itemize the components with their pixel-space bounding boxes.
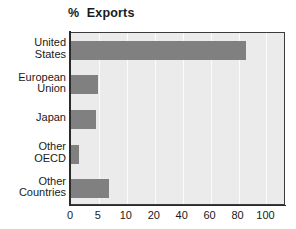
- gridline: [266, 33, 267, 204]
- y-axis-label-line: States: [34, 49, 66, 61]
- y-axis-label-line: OECD: [34, 153, 66, 165]
- y-axis-label: EuropeanUnion: [18, 72, 66, 95]
- x-axis-tick-label: 10: [120, 209, 132, 221]
- x-axis-tick-label: 60: [203, 209, 215, 221]
- x-axis-tick-label: 5: [95, 209, 101, 221]
- bar: [71, 179, 109, 198]
- bar: [71, 41, 246, 60]
- bar: [71, 145, 79, 164]
- x-axis-tick-label: 20: [148, 209, 160, 221]
- x-axis-tick-label: 0: [67, 209, 73, 221]
- chart-title-text: Exports: [87, 6, 135, 20]
- x-axis-tick-label: 40: [176, 209, 188, 221]
- bar: [71, 110, 96, 129]
- y-axis-label-line: Other: [34, 141, 66, 153]
- chart-title: % Exports: [68, 6, 135, 20]
- y-axis-label-line: Union: [18, 83, 66, 95]
- y-axis-label-line: Japan: [36, 112, 66, 124]
- plot-area: [70, 32, 285, 205]
- chart-title-symbol: %: [68, 6, 79, 20]
- y-axis-label: OtherOECD: [34, 141, 66, 164]
- y-axis-line: [69, 31, 71, 206]
- x-axis-tick-label: 80: [231, 209, 243, 221]
- bar: [71, 75, 98, 94]
- y-axis-label-line: Countries: [19, 187, 66, 199]
- y-axis-label: Japan: [36, 112, 66, 124]
- y-axis-label: UnitedStates: [34, 37, 66, 60]
- chart-figure: % Exports UnitedStatesEuropeanUnionJapan…: [0, 0, 296, 229]
- y-axis-label: OtherCountries: [19, 176, 66, 199]
- x-axis-line: [69, 205, 286, 207]
- x-axis-tick-label: 100: [256, 209, 274, 221]
